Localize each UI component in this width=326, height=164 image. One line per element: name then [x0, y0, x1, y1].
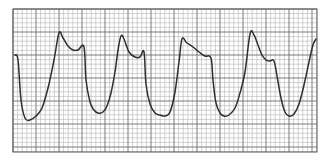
waveform-chart — [0, 0, 326, 164]
